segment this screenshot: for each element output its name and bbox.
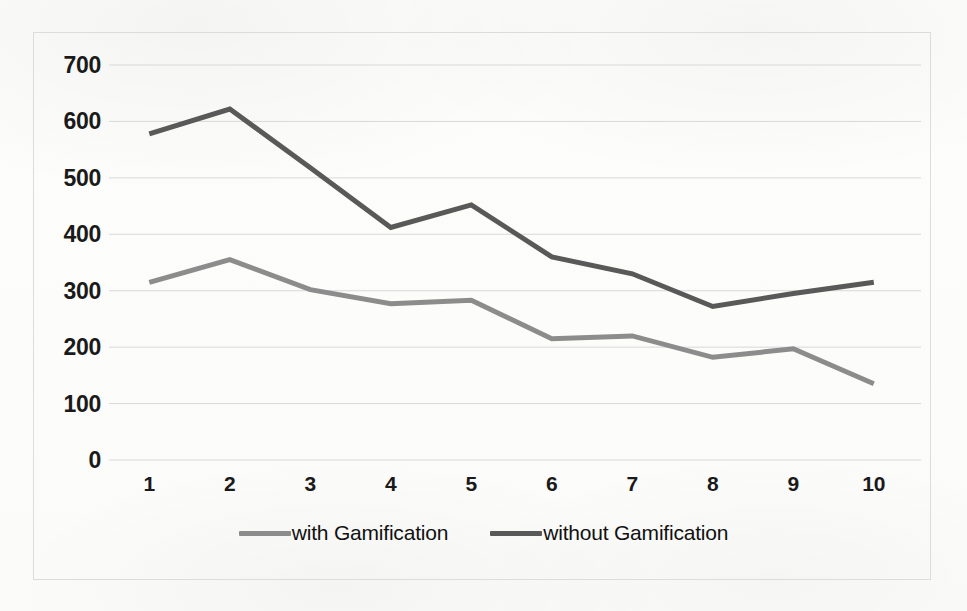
x-axis-tick-label: 6 bbox=[529, 472, 575, 496]
chart-legend: with Gamification without Gamification bbox=[0, 521, 967, 545]
y-axis-tick-label: 400 bbox=[37, 221, 101, 248]
legend-item-with-gamification[interactable]: with Gamification bbox=[239, 521, 449, 545]
legend-swatch-with-gamification bbox=[239, 531, 291, 536]
x-axis-tick-label: 1 bbox=[126, 472, 172, 496]
y-axis-tick-label: 100 bbox=[37, 390, 101, 417]
y-axis-tick-label: 300 bbox=[37, 277, 101, 304]
legend-label-with-gamification: with Gamification bbox=[292, 521, 449, 545]
series-line-with-gamification bbox=[149, 260, 874, 384]
legend-item-without-gamification[interactable]: without Gamification bbox=[490, 521, 728, 545]
x-axis-tick-label: 5 bbox=[448, 472, 494, 496]
chart-plot-area bbox=[0, 0, 967, 611]
y-axis-tick-label: 0 bbox=[37, 447, 101, 474]
y-axis-tick-label: 500 bbox=[37, 164, 101, 191]
x-axis-tick-label: 2 bbox=[207, 472, 253, 496]
x-axis-tick-label: 10 bbox=[851, 472, 897, 496]
y-axis-tick-label: 700 bbox=[37, 52, 101, 79]
legend-label-without-gamification: without Gamification bbox=[543, 521, 728, 545]
y-axis-tick-label: 600 bbox=[37, 108, 101, 135]
series-lines-group bbox=[149, 109, 874, 384]
x-axis-tick-label: 7 bbox=[609, 472, 655, 496]
legend-swatch-without-gamification bbox=[490, 531, 542, 536]
y-axis-tick-label: 200 bbox=[37, 334, 101, 361]
x-axis-tick-label: 8 bbox=[690, 472, 736, 496]
x-axis-tick-label: 3 bbox=[287, 472, 333, 496]
series-line-without-gamification bbox=[149, 109, 874, 307]
x-axis-tick-label: 4 bbox=[368, 472, 414, 496]
x-axis-tick-label: 9 bbox=[770, 472, 816, 496]
